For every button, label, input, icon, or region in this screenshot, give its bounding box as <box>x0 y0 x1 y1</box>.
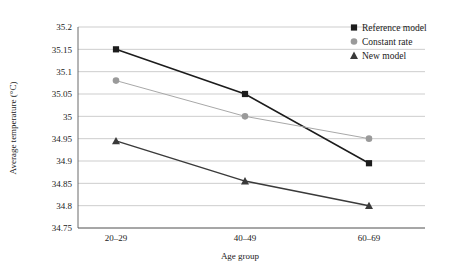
y-tick-label-2: 34.85 <box>52 179 73 189</box>
y-tick-label-3: 34.9 <box>56 156 72 166</box>
legend-label-2: New model <box>362 51 406 61</box>
legend-marker-circle <box>351 38 358 45</box>
y-tick-label-1: 34.8 <box>56 201 72 211</box>
y-axis-tick-labels: 34.7534.834.8534.934.953535.0535.135.153… <box>52 22 73 233</box>
y-tick-label-9: 35.2 <box>56 22 72 32</box>
y-tick-label-4: 34.95 <box>52 134 73 144</box>
y-tick-label-5: 35 <box>63 112 73 122</box>
line-chart: 34.7534.834.8534.934.953535.0535.135.153… <box>0 0 455 276</box>
y-axis-title: Average temperature (°C) <box>8 82 18 175</box>
y-tick-label-6: 35.05 <box>52 89 73 99</box>
data-point-0-0 <box>113 46 119 52</box>
data-point-1-2 <box>366 135 373 142</box>
x-tick-label-0: 20–29 <box>105 233 128 243</box>
y-tick-label-7: 35.1 <box>56 67 72 77</box>
chart-container: 34.7534.834.8534.934.953535.0535.135.153… <box>0 0 455 276</box>
data-point-0-2 <box>366 160 372 166</box>
x-tick-label-1: 40–49 <box>234 233 257 243</box>
legend-marker-square <box>351 24 357 30</box>
legend-label-0: Reference model <box>362 23 427 33</box>
legend-item-0[interactable]: Reference model <box>351 23 427 33</box>
x-axis-title: Age group <box>221 251 260 261</box>
data-point-1-1 <box>242 113 249 120</box>
data-point-0-1 <box>242 91 248 97</box>
legend-label-1: Constant rate <box>362 37 412 47</box>
y-tick-label-8: 35.15 <box>52 45 73 55</box>
data-point-1-0 <box>113 77 120 84</box>
y-tick-label-0: 34.75 <box>52 223 73 233</box>
x-tick-label-2: 60–69 <box>358 233 381 243</box>
